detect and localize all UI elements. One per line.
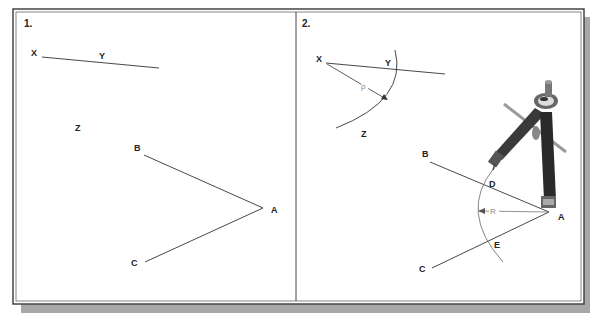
label-y: Y <box>99 51 105 61</box>
radius-label: ρ <box>361 82 366 91</box>
panel-number: 2. <box>302 18 311 29</box>
label-z: Z <box>361 129 367 139</box>
label-e: E <box>494 240 500 250</box>
radius-r-label: R <box>490 207 496 216</box>
label-z: Z <box>75 123 81 133</box>
panel-number: 1. <box>24 18 33 29</box>
label-d: D <box>489 179 496 189</box>
label-c: C <box>419 264 426 274</box>
label-a: A <box>271 205 278 215</box>
label-a: A <box>558 212 565 222</box>
label-y: Y <box>385 58 391 68</box>
label-c: C <box>131 258 138 268</box>
label-b: B <box>134 143 141 153</box>
label-b: B <box>422 149 429 159</box>
label-x: X <box>316 54 322 64</box>
label-x: X <box>31 48 37 58</box>
geometry-figure: 1. X Y Z B A C 2. X Y Z ρ B A C D E <box>0 0 599 322</box>
